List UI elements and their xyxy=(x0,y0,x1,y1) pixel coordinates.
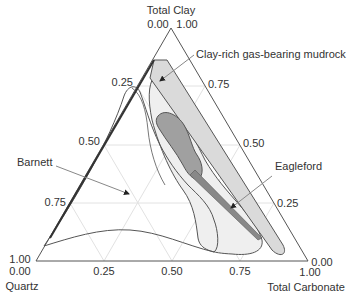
vertex-br-label-b: 1.00 xyxy=(299,266,320,278)
bottom-tick-025: 0.25 xyxy=(93,265,114,277)
right-tick-050: 0.50 xyxy=(243,137,264,149)
vertex-top-label-a: 0.00 xyxy=(147,18,168,30)
clay-rich-annotation: Clay-rich gas-bearing mudrock xyxy=(196,48,346,60)
vertex-top-title: Total Clay xyxy=(147,4,196,16)
vertex-br-title: Total Carbonate xyxy=(267,281,345,293)
vertex-top-label-b: 1.00 xyxy=(176,18,197,30)
bottom-tick-050: 0.50 xyxy=(161,265,182,277)
ternary-diagram: Total Clay 0.00 1.00 1.00 0.00 Quartz 0.… xyxy=(0,0,353,294)
barnett-annotation: Barnett xyxy=(17,156,52,168)
bottom-tick-075: 0.75 xyxy=(229,265,250,277)
left-tick-025: 0.25 xyxy=(112,76,133,88)
left-tick-050: 0.50 xyxy=(79,135,100,147)
eagleford-annotation: Eagleford xyxy=(275,160,322,172)
vertex-bl-label-b: 0.00 xyxy=(9,265,30,277)
left-edge-highlight xyxy=(50,60,154,238)
vertex-bl-label-a: 1.00 xyxy=(9,253,30,265)
right-tick-025: 0.25 xyxy=(277,197,298,209)
barnett-arrow xyxy=(56,166,129,194)
vertex-bl-title: Quartz xyxy=(5,280,38,292)
right-tick-075: 0.75 xyxy=(208,78,229,90)
left-tick-075: 0.75 xyxy=(45,196,66,208)
